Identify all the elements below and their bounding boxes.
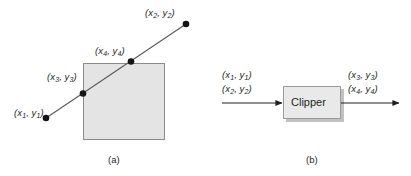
label-point-3: (x3, y3) <box>47 72 77 82</box>
intersection-p4-dot <box>128 58 135 65</box>
label-output-point-3: (x3, y3) <box>348 70 378 80</box>
intersection-p3-dot <box>80 90 87 97</box>
caption-panel-a: (a) <box>108 155 120 165</box>
figure-container: (x1, y1) (x2, y2) (x3, y3) (x4, y4) (x1,… <box>0 0 411 176</box>
label-point-1: (x1, y1) <box>14 108 44 118</box>
label-output-point-4: (x4, y4) <box>348 84 378 94</box>
label-input-point-2: (x2, y2) <box>222 84 252 94</box>
clip-window-rect <box>84 64 165 140</box>
label-point-4: (x4, y4) <box>95 46 125 56</box>
label-input-point-1: (x1, y1) <box>222 70 252 80</box>
endpoint-p2-dot <box>183 21 190 28</box>
caption-panel-b: (b) <box>306 155 318 165</box>
label-point-2: (x2, y2) <box>145 8 175 18</box>
clipper-block-label: Clipper <box>291 97 326 108</box>
